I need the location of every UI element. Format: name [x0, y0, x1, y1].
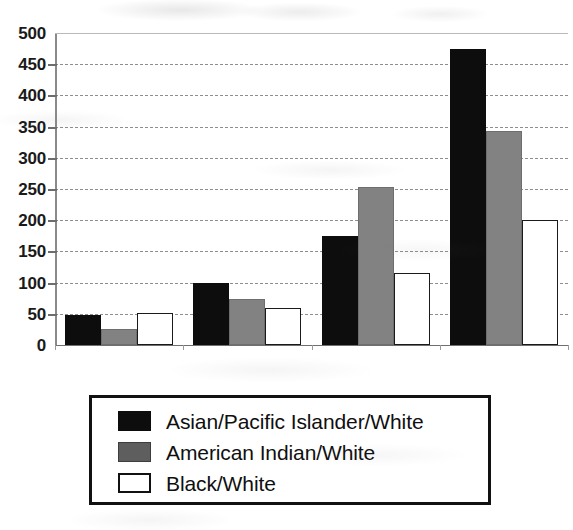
x-axis-tick-mark: [568, 345, 569, 350]
y-axis-tick-label: 100: [2, 275, 46, 292]
bar-series-group: [55, 33, 568, 345]
bar-chart-figure: 050100150200250300350400450500 Asian/Pac…: [0, 0, 573, 530]
plot-area: [55, 33, 568, 345]
bar: [193, 283, 229, 345]
y-axis-tick-label: 450: [2, 56, 46, 73]
legend-swatch-icon: [118, 442, 151, 462]
legend-item-label: Asian/Pacific Islander/White: [166, 411, 423, 432]
x-axis-tick-mark: [55, 345, 56, 350]
y-axis-tick-label: 500: [2, 25, 46, 42]
y-axis-tick-label: 350: [2, 119, 46, 136]
x-axis-tick-mark: [312, 345, 313, 350]
bar: [101, 329, 137, 345]
bar: [450, 49, 486, 345]
y-axis-tick-label: 250: [2, 181, 46, 198]
chart-legend: Asian/Pacific Islander/White American In…: [89, 395, 491, 505]
legend-item-label: Black/White: [166, 473, 276, 494]
y-axis-tick-mark: [48, 220, 57, 222]
legend-item: Asian/Pacific Islander/White: [118, 406, 488, 436]
y-axis-tick-mark: [48, 127, 57, 129]
bar: [358, 187, 394, 345]
y-axis-tick-mark: [48, 189, 57, 191]
y-axis-tick-label: 400: [2, 87, 46, 104]
legend-swatch-icon: [118, 411, 151, 431]
legend-swatch-icon: [118, 473, 151, 493]
x-axis-tick-mark: [183, 345, 184, 350]
bar: [65, 315, 101, 345]
y-axis-tick-mark: [48, 251, 57, 253]
legend-item: Black/White: [118, 468, 488, 498]
bar: [522, 220, 558, 345]
bar: [486, 131, 522, 345]
y-axis-tick-mark: [48, 283, 57, 285]
bar: [229, 299, 265, 345]
legend-item: American Indian/White: [118, 437, 488, 467]
bar: [137, 313, 173, 345]
legend-item-label: American Indian/White: [166, 442, 375, 463]
y-axis-tick-labels: 050100150200250300350400450500: [0, 0, 46, 530]
y-axis-tick-label: 200: [2, 212, 46, 229]
y-axis-tick-mark: [48, 158, 57, 160]
y-axis-tick-mark: [48, 64, 57, 66]
y-axis-tick-label: 0: [2, 337, 46, 354]
y-axis-tick-mark: [48, 95, 57, 97]
bar: [394, 273, 430, 345]
y-axis-tick-label: 150: [2, 243, 46, 260]
bar: [265, 308, 301, 345]
x-axis-tick-mark: [440, 345, 441, 350]
y-axis-tick-label: 50: [2, 306, 46, 323]
y-axis-tick-mark: [48, 314, 57, 316]
bar: [322, 236, 358, 345]
y-axis-tick-label: 300: [2, 150, 46, 167]
